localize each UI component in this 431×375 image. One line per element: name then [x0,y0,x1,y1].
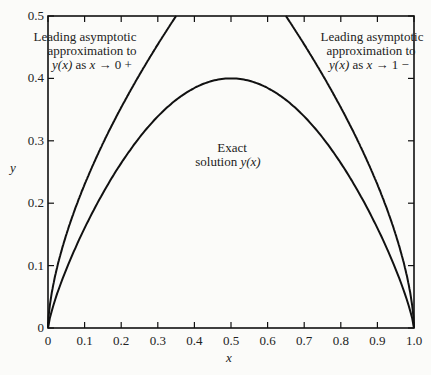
annot-left-line3: y(x) as x → 0 + [50,57,132,72]
annot-right-line3: y(x) as x → 1 − [327,57,409,72]
annot-exact-line1: Exact [217,140,247,155]
annot-right-line2: approximation to [326,43,415,58]
annotations: Leading asymptotic approximation to y(x)… [0,0,431,375]
x-axis-label: x [225,350,232,365]
annot-left-line2: approximation to [47,43,136,58]
annot-exact-line2: solution y(x) [195,154,260,169]
annot-right-line1: Leading asymptotic [321,29,424,44]
annot-left-line1: Leading asymptotic [34,29,137,44]
y-axis-label: y [8,160,16,175]
